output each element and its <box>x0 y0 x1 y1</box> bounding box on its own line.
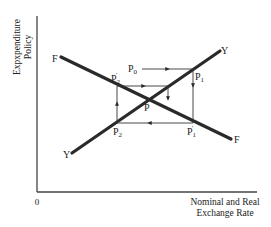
label-p-equilibrium: P <box>144 102 150 113</box>
y-curve-start-label: Y <box>63 149 70 160</box>
label-p1: P1 <box>195 71 205 84</box>
x-axis-label-line1: Nominal and Real <box>190 197 259 207</box>
x-axis-label-line2: Exchange Rate <box>196 208 253 218</box>
svg-text:P2': P2' <box>111 71 121 86</box>
label-p0: P0 <box>128 63 138 76</box>
y-axis-label: Expxpenditure Policy <box>12 19 33 75</box>
label-p2: P2 <box>113 126 123 139</box>
f-curve-end-label: F <box>234 134 240 145</box>
svg-text:P2: P2 <box>113 126 123 139</box>
y-axis-label-line2: Policy <box>23 35 33 60</box>
svg-text:P0: P0 <box>128 63 138 76</box>
diagram-canvas: Expxpenditure Policy Nominal and Real Ex… <box>0 0 271 227</box>
svg-text:P: P <box>144 102 150 113</box>
origin-label: 0 <box>35 197 40 207</box>
y-curve-end-label: Y <box>221 45 228 56</box>
svg-text:P1: P1 <box>195 71 205 84</box>
f-curve-start-label: F <box>52 53 58 64</box>
label-p2-prime: P2' <box>111 71 121 86</box>
y-axis-label-line1: Expxpenditure <box>12 19 22 75</box>
label-p1-prime: P1' <box>187 124 197 139</box>
svg-text:P1': P1' <box>187 124 197 139</box>
